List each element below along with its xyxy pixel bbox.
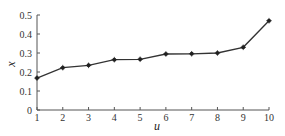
star-marker-icon bbox=[189, 51, 195, 57]
y-tick-label: 0.1 bbox=[20, 86, 33, 97]
x-tick-label: 3 bbox=[86, 112, 91, 123]
axes bbox=[37, 15, 269, 110]
y-tick-label: 0.4 bbox=[20, 29, 33, 40]
star-marker-icon bbox=[215, 50, 221, 56]
star-marker-icon bbox=[163, 51, 169, 57]
star-marker-icon bbox=[112, 57, 118, 63]
x-tick-label: 1 bbox=[35, 112, 40, 123]
series-line bbox=[37, 21, 269, 78]
x-tick-label: 10 bbox=[264, 112, 274, 123]
star-marker-icon bbox=[60, 65, 66, 71]
x-tick-label: 6 bbox=[163, 112, 168, 123]
y-axis-label: x bbox=[4, 61, 18, 68]
data-series bbox=[34, 18, 272, 81]
x-tick-label: 2 bbox=[60, 112, 65, 123]
line-chart: 00.10.20.30.40.5 12345678910 u x bbox=[0, 0, 285, 136]
x-axis-label: u bbox=[154, 119, 160, 133]
x-tick-label: 7 bbox=[189, 112, 194, 123]
star-marker-icon bbox=[34, 75, 40, 81]
y-tick-label: 0.5 bbox=[20, 10, 33, 21]
x-tick-label: 9 bbox=[241, 112, 246, 123]
x-tick-label: 4 bbox=[112, 112, 117, 123]
y-tick-label: 0.2 bbox=[20, 67, 33, 78]
star-marker-icon bbox=[86, 63, 92, 69]
x-tick-label: 8 bbox=[215, 112, 220, 123]
y-tick-label: 0 bbox=[27, 105, 32, 116]
x-tick-label: 5 bbox=[138, 112, 143, 123]
y-tick-label: 0.3 bbox=[20, 48, 33, 59]
star-marker-icon bbox=[137, 56, 143, 62]
